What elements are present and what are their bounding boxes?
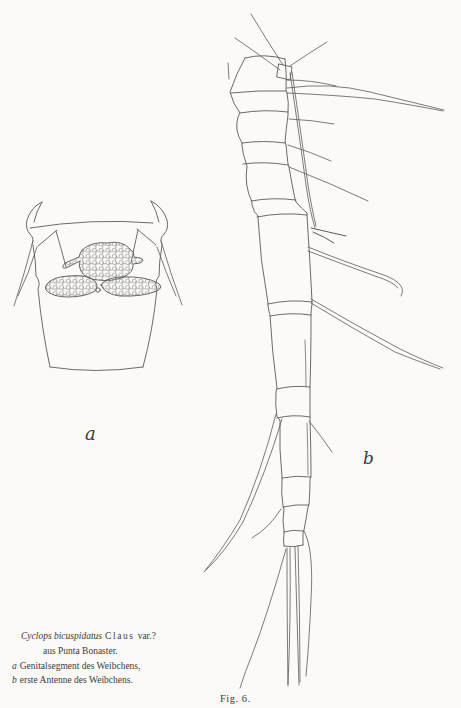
- figure-a-label: a: [85, 423, 96, 444]
- receptaculum-right-lobe: [101, 277, 161, 296]
- caption-item-a-marker: a: [12, 661, 17, 671]
- receptaculum-upper-lobe: [63, 242, 143, 280]
- antenna-drawing: [204, 14, 444, 688]
- genital-segment-drawing: [14, 201, 182, 371]
- plate-drawing: [0, 0, 461, 708]
- scanned-plate-page: a b Cyclops bicuspidatusClausvar.? aus P…: [0, 0, 461, 708]
- variant-note: var.?: [138, 631, 156, 641]
- caption-item-a: aGenitalsegment des Weibchens,: [12, 661, 140, 671]
- figure-b-label: b: [363, 448, 374, 468]
- caption-item-a-text: Genitalsegment des Weibchens,: [20, 661, 141, 671]
- species-name: Cyclops bicuspidatus: [21, 631, 102, 641]
- caption-item-b-text: erste Antenne des Weibchens.: [20, 675, 133, 685]
- caption-item-b-marker: b: [12, 675, 17, 685]
- author-name: Claus: [105, 631, 135, 641]
- caption-item-b: berste Antenne des Weibchens.: [12, 675, 133, 685]
- figure-number: Fig. 6.: [220, 693, 251, 704]
- receptaculum-left-lobe: [45, 276, 97, 297]
- caption-title-line: Cyclops bicuspidatusClausvar.?: [21, 631, 156, 641]
- caption-locality: aus Punta Bonaster.: [43, 646, 118, 656]
- antenna-setae: [204, 14, 444, 688]
